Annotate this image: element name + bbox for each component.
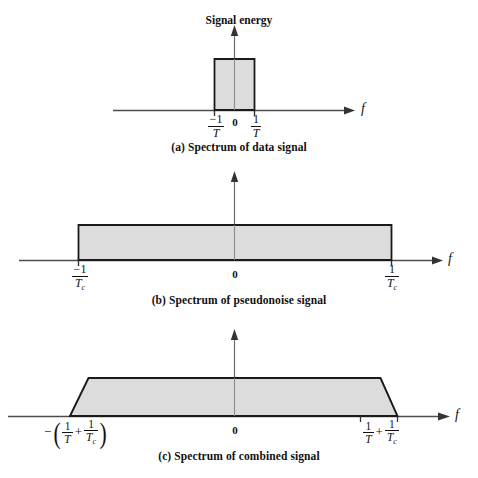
denominator-subscript: c: [92, 437, 96, 446]
fraction-numerator: 1: [363, 420, 373, 432]
panel-a-f-axis-label: f: [361, 101, 365, 117]
close-paren: ): [99, 421, 106, 444]
panel-a-zero-label: 0: [228, 116, 242, 128]
fraction-numerator: −1: [208, 113, 225, 126]
denominator-symbol: T: [387, 276, 394, 290]
denominator-subscript: c: [82, 283, 86, 292]
minus-sign: −: [44, 424, 52, 440]
expression-sum: 1 T + 1 Tc: [363, 418, 399, 447]
panel-c-f-axis-label: f: [455, 407, 459, 423]
panel-a-y-axis-title: Signal energy: [0, 14, 478, 26]
denominator-subscript: c: [394, 283, 398, 292]
figure-container: Signal energy −1 T 0 1 T f (a) Spectrum …: [0, 0, 478, 478]
fraction-neg-one-over-Tc: −1 Tc: [72, 263, 89, 292]
panel-c: −( 1 T + 1 Tc ) 0 1 T + 1: [0, 316, 478, 478]
panel-b-caption: (b) Spectrum of pseudonoise signal: [0, 294, 478, 306]
fraction-one-over-Tc: 1 Tc: [84, 418, 98, 447]
fraction-neg-one-over-T: −1 T: [208, 113, 225, 139]
panel-c-zero-label: 0: [228, 424, 242, 436]
open-paren: (: [54, 421, 61, 444]
panel-c-caption: (c) Spectrum of combined signal: [0, 450, 478, 462]
plus-sign: +: [374, 424, 385, 440]
fraction-denominator: T: [62, 432, 72, 445]
panel-a-y-axis-arrow: [231, 25, 238, 36]
panel-b-tick-label-right: 1 Tc: [377, 263, 407, 292]
fraction-denominator: T: [251, 126, 262, 140]
fraction-numerator: 1: [62, 420, 72, 432]
panel-b-tick-label-left: −1 Tc: [60, 263, 100, 292]
panel-a-caption: (a) Spectrum of data signal: [0, 141, 478, 153]
fraction-one-over-Tc: 1 Tc: [385, 263, 399, 292]
panel-b-x-axis-arrow: [432, 257, 443, 265]
fraction-numerator: 1: [251, 113, 262, 126]
fraction-numerator: 1: [84, 418, 98, 430]
fraction-denominator: T: [208, 126, 225, 140]
fraction-one-over-Tc: 1 Tc: [385, 418, 399, 447]
panel-b-y-axis-arrow: [231, 171, 238, 182]
fraction-numerator: 1: [385, 263, 399, 276]
fraction-numerator: −1: [72, 263, 89, 276]
fraction-denominator: Tc: [72, 276, 89, 293]
fraction-denominator: Tc: [84, 430, 98, 447]
fraction-one-over-T: 1 T: [251, 113, 262, 139]
panel-a-tick-label-right: 1 T: [243, 113, 269, 139]
fraction-one-over-T: 1 T: [363, 420, 373, 445]
panel-a: Signal energy −1 T 0 1 T f (a) Spectrum …: [0, 0, 478, 158]
fraction-denominator: Tc: [385, 430, 399, 447]
panel-b-zero-label: 0: [228, 268, 242, 280]
panel-c-spectrum-trapezoid: [70, 378, 398, 416]
denominator-subscript: c: [393, 437, 397, 446]
plus-sign: +: [73, 424, 84, 440]
panel-a-x-axis-arrow: [344, 107, 355, 115]
panel-c-tick-label-right: 1 T + 1 Tc: [336, 418, 426, 447]
expression-neg-sum: −( 1 T + 1 Tc ): [44, 418, 108, 447]
denominator-symbol: T: [75, 276, 82, 290]
panel-c-y-axis-arrow: [231, 329, 238, 340]
fraction-numerator: 1: [385, 418, 399, 430]
fraction-denominator: Tc: [385, 276, 399, 293]
fraction-one-over-T: 1 T: [62, 420, 72, 445]
panel-c-tick-label-left: −( 1 T + 1 Tc ): [16, 418, 136, 447]
panel-b: −1 Tc 0 1 Tc f (b) Spectrum of pseudonoi…: [0, 158, 478, 316]
fraction-denominator: T: [363, 432, 373, 445]
panel-b-f-axis-label: f: [448, 251, 452, 267]
panel-c-x-axis-arrow: [438, 413, 450, 421]
